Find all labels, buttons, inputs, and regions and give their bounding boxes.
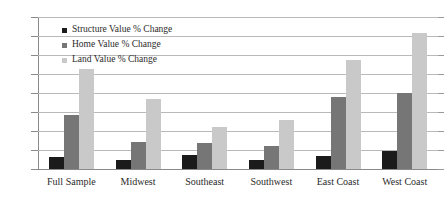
bar (197, 143, 212, 169)
x-axis-line (38, 169, 439, 170)
category-label: East Coast (305, 177, 372, 187)
bar (249, 160, 264, 170)
bar-group (382, 17, 427, 169)
bar (331, 97, 346, 169)
gridline (38, 150, 438, 151)
y-axis-label-wrap: 120% (0, 55, 38, 56)
bar (64, 115, 79, 169)
right-axis-tick (438, 112, 444, 113)
category-label: Southwest (238, 177, 305, 187)
right-axis-tick (438, 55, 444, 56)
gridline (38, 112, 438, 113)
gridline (38, 74, 438, 75)
bar (182, 155, 197, 169)
legend-swatch-home-icon (62, 43, 67, 48)
y-axis-label-wrap: 100% (0, 74, 38, 75)
right-axis-tick (438, 36, 444, 37)
bar (264, 146, 279, 169)
legend-item: Structure Value % Change (62, 23, 172, 37)
legend-label-land: Land Value % Change (72, 55, 157, 65)
right-axis-tick (438, 93, 444, 94)
gridline (38, 131, 438, 132)
bar-group-bars (249, 17, 294, 169)
legend-item: Home Value % Change (62, 38, 172, 52)
right-axis-tick (438, 150, 444, 151)
bar (212, 127, 227, 169)
bar (146, 99, 161, 169)
right-axis-tick (438, 131, 444, 132)
bar-chart: 0%20%40%60%80%100%120%140%160% Full Samp… (0, 0, 444, 202)
y-axis-label-wrap: 140% (0, 36, 38, 37)
bar (412, 33, 427, 169)
category-label: West Coast (371, 177, 438, 187)
legend-label-home: Home Value % Change (72, 40, 161, 50)
bar (346, 60, 361, 169)
y-axis-label-wrap: 20% (0, 150, 38, 151)
bar-group-bars (182, 17, 227, 169)
y-axis-label-wrap: 60% (0, 112, 38, 113)
y-axis-label-wrap: 40% (0, 131, 38, 132)
bar-group (249, 17, 294, 169)
bar-group-bars (316, 17, 361, 169)
right-axis-tick (438, 17, 444, 18)
right-axis-tick (438, 169, 444, 170)
bar (316, 156, 331, 169)
right-axis-tick (438, 74, 444, 75)
bar-group-bars (382, 17, 427, 169)
bar (79, 69, 94, 169)
bar (382, 151, 397, 169)
bar-group (182, 17, 227, 169)
category-label: Full Sample (38, 177, 105, 187)
category-label: Midwest (105, 177, 172, 187)
bar (397, 93, 412, 169)
bar (279, 120, 294, 169)
gridline (38, 17, 438, 18)
legend-swatch-structure-icon (62, 28, 67, 33)
y-axis-label-wrap: 80% (0, 93, 38, 94)
y-axis-label-wrap: 0% (0, 169, 38, 170)
gridline (38, 93, 438, 94)
bar (116, 160, 131, 169)
chart-legend: Structure Value % Change Home Value % Ch… (62, 23, 172, 68)
category-label: Southeast (171, 177, 238, 187)
legend-label-structure: Structure Value % Change (72, 25, 172, 35)
legend-item: Land Value % Change (62, 53, 172, 67)
bar (131, 142, 146, 169)
bar (49, 157, 64, 169)
legend-swatch-land-icon (62, 58, 67, 63)
y-axis-label-wrap: 160% (0, 17, 38, 18)
bar-group (316, 17, 361, 169)
